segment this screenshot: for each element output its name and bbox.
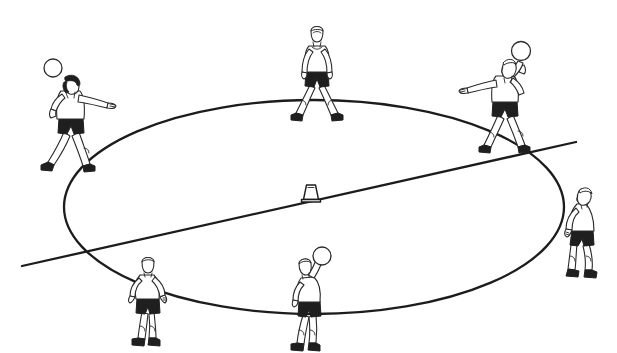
player-top-right	[459, 59, 530, 153]
diagonal-line-marking	[22, 142, 576, 266]
diagram-canvas	[0, 0, 617, 353]
drill-diagram-scene: Circle passing drill diagram	[0, 0, 617, 353]
player-bottom-center	[291, 253, 330, 351]
ball-top-right-player	[512, 42, 531, 61]
player-bottom-left	[129, 258, 167, 347]
ball-left-player	[44, 59, 62, 77]
centre-cone-icon	[302, 185, 321, 202]
ball-bottom-center-player	[313, 247, 331, 265]
player-top-center	[291, 27, 343, 122]
player-left	[41, 75, 116, 172]
player-right	[565, 188, 597, 278]
